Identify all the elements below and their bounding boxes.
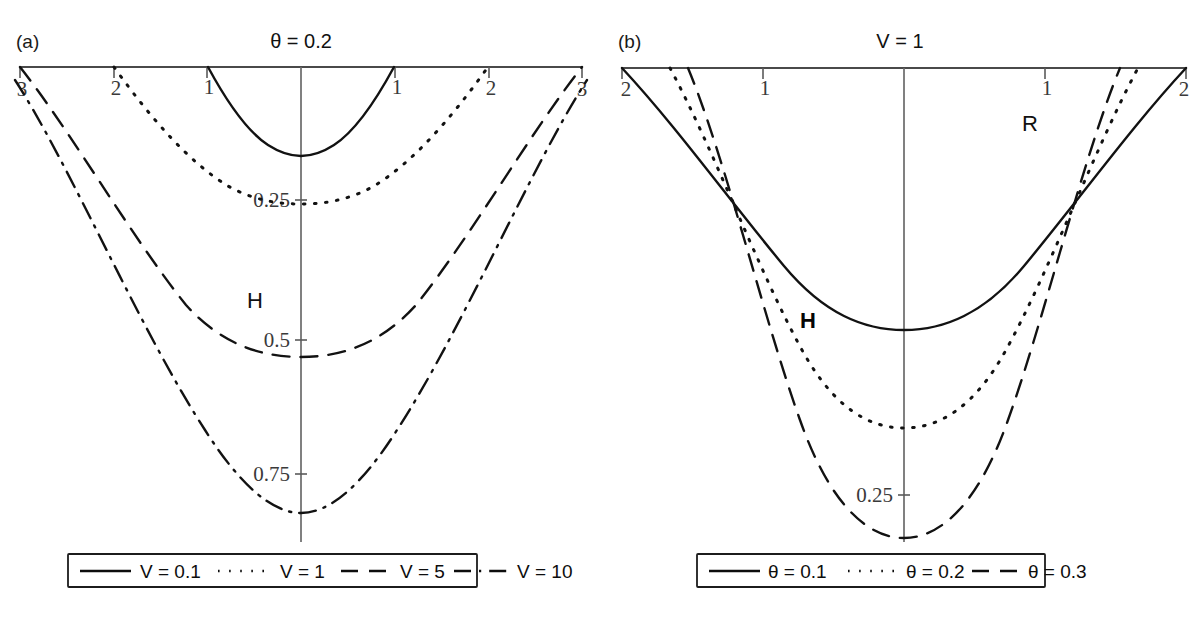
panel-b-xtick--2: 2 (621, 77, 632, 101)
panel-a-xtick-1: 1 (392, 75, 403, 99)
panel-a-ytick-05: 0.5 (264, 328, 290, 352)
panel-a-xtick-2: 2 (486, 76, 497, 100)
panel-a-title: θ = 0.2 (270, 30, 332, 52)
panel-b-ytick-025: 0.25 (856, 483, 893, 507)
legend-a-label-2: V = 5 (400, 561, 445, 582)
panel-a-xtick--2: 2 (111, 76, 122, 100)
legend-a-label-1: V = 1 (280, 561, 325, 582)
panel-b-xtick--1: 1 (760, 76, 771, 100)
legend-b-label-1: θ = 0.2 (906, 561, 965, 582)
panel-b-xtick-1: 1 (1042, 76, 1053, 100)
panel-a-letter: (a) (16, 31, 39, 52)
legend-b-label-0: θ = 0.1 (768, 561, 827, 582)
panel-a-xtick--1: 1 (204, 75, 215, 99)
panel-a: (a) θ = 0.2 3 2 1 1 2 3 0.25 0.5 0.75 (15, 30, 587, 542)
panel-b-y-axis-name: H (800, 308, 816, 333)
legend-panel-a: V = 0.1 V = 1 V = 5 V = 10 (68, 554, 572, 587)
panel-b: (b) V = 1 2 1 1 2 0.25 R H (618, 30, 1189, 542)
panel-a-ytick-075: 0.75 (253, 462, 290, 486)
legend-panel-b: θ = 0.1 θ = 0.2 θ = 0.3 (697, 554, 1087, 587)
panel-b-x-axis-name: R (1022, 111, 1038, 136)
panel-b-xtick-2: 2 (1179, 77, 1190, 101)
legend-a-label-0: V = 0.1 (140, 561, 201, 582)
figure-root: (a) θ = 0.2 3 2 1 1 2 3 0.25 0.5 0.75 (0, 0, 1201, 626)
legend-b-label-2: θ = 0.3 (1028, 561, 1087, 582)
panel-a-y-axis-name: H (247, 288, 263, 313)
panel-b-title: V = 1 (876, 30, 923, 52)
panel-b-letter: (b) (618, 31, 641, 52)
legend-a-label-3: V = 10 (517, 561, 572, 582)
